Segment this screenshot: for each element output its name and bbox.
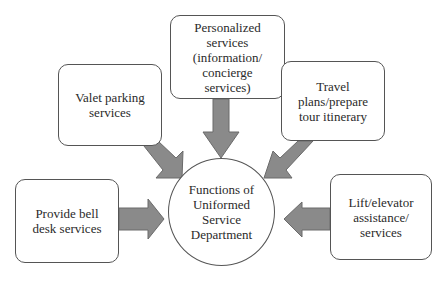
arrow-bell-desk-to-center [119, 199, 164, 239]
node-label: Valet parking services [75, 90, 145, 120]
node-label: Provide bell desk services [33, 206, 102, 236]
node-label: Lift/elevator assistance/ services [349, 195, 414, 240]
arrow-lift-to-center [284, 202, 330, 237]
node-lift-elevator: Lift/elevator assistance/ services [330, 174, 432, 260]
node-travel-plans: Travel plans/prepare tour itinerary [281, 61, 385, 141]
arrow-travel-to-center [264, 141, 313, 178]
node-valet-parking: Valet parking services [58, 64, 162, 146]
center-label: Functions of Uniformed Service Departmen… [189, 182, 254, 242]
arrow-personalized-to-center [203, 99, 239, 158]
node-bell-desk: Provide bell desk services [15, 179, 119, 263]
node-label: Personalized services (information/ conc… [193, 20, 262, 95]
node-label: Travel plans/prepare tour itinerary [298, 79, 368, 124]
center-functions-uniformed-service: Functions of Uniformed Service Departmen… [168, 158, 275, 266]
arrow-valet-to-center [140, 141, 183, 178]
node-personalized-services: Personalized services (information/ conc… [170, 15, 285, 99]
